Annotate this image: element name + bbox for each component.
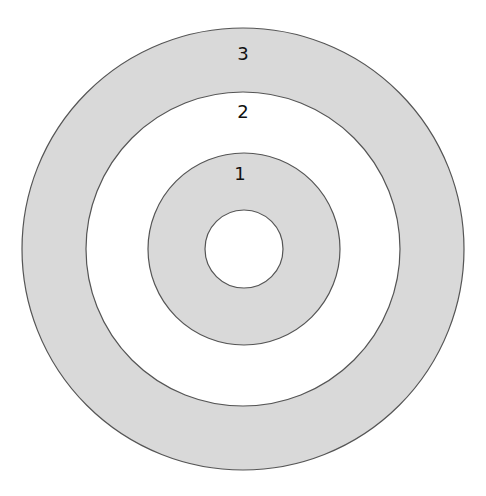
label-ring-3: 3 bbox=[237, 43, 248, 64]
label-ring-2: 2 bbox=[237, 101, 248, 122]
concentric-rings-diagram: 3 2 1 bbox=[0, 0, 486, 496]
label-ring-1: 1 bbox=[234, 163, 245, 184]
center-circle bbox=[205, 210, 283, 288]
